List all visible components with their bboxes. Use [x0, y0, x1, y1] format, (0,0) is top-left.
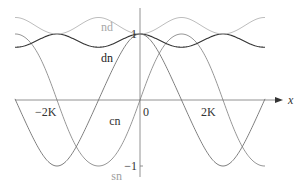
dn-label: dn: [101, 51, 113, 65]
x-axis-label: x: [287, 93, 294, 107]
sn-label: sn: [111, 169, 122, 183]
x-tick-label: 0: [143, 105, 149, 119]
x-axis-arrow-icon: [275, 97, 283, 103]
cn-label: cn: [109, 114, 120, 128]
x-tick-label: −2K: [35, 105, 57, 119]
y-tick-label: −1: [124, 159, 137, 173]
elliptic-functions-chart: −2K02K1−1 x sncndnnd: [0, 0, 306, 185]
x-tick-label: 2K: [201, 105, 216, 119]
y-tick-label: 1: [131, 27, 137, 41]
nd-label: nd: [101, 20, 113, 34]
